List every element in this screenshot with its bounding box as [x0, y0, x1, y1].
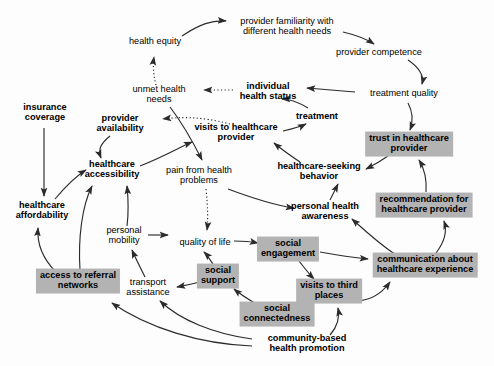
- edge-provider-competence-to-treatment-quality: [408, 60, 422, 84]
- node-quality-of-life[interactable]: quality of life: [179, 238, 230, 248]
- edge-provider-availability-to-accessibility: [100, 136, 110, 158]
- edge-seeking-behavior-to-visits: [274, 143, 300, 162]
- edge-pain-to-awareness: [228, 189, 294, 208]
- node-provider-familiarity[interactable]: provider familiarity with different heal…: [240, 17, 333, 37]
- node-social-support[interactable]: social support: [197, 264, 239, 289]
- edge-personal-mobility-to-accessibility: [127, 186, 128, 226]
- edge-treatment-quality-to-individual-health-status: [307, 88, 355, 92]
- node-healthcare-seeking-behavior[interactable]: healthcare-seeking behavior: [277, 162, 360, 182]
- edge-referral-to-affordability: [38, 228, 56, 272]
- edge-social-engagement-to-third-places: [299, 261, 314, 279]
- edge-pain-to-quality-of-life: [206, 189, 208, 230]
- node-communication-about-healthcare-experience[interactable]: communication about healthcare experienc…: [373, 253, 478, 278]
- edge-referral-to-accessibility: [80, 186, 93, 270]
- node-treatment[interactable]: treatment: [296, 112, 338, 122]
- node-healthcare-accessibility[interactable]: healthcare accessibility: [85, 160, 140, 180]
- node-pain-from-health-problems[interactable]: pain from health problems: [166, 166, 232, 186]
- edge-community-promotion-to-referral: [112, 303, 252, 346]
- edge-health-equity-to-provider-familiarity: [182, 21, 226, 36]
- node-social-engagement[interactable]: social engagement: [257, 237, 319, 262]
- edge-community-promotion-to-third-places: [330, 308, 339, 335]
- node-provider-competence[interactable]: provider competence: [336, 48, 422, 58]
- edge-affordability-to-accessibility: [55, 170, 86, 199]
- node-personal-mobility[interactable]: personal mobility: [106, 226, 141, 246]
- edge-social-support-to-quality-of-life: [204, 252, 213, 264]
- edge-quality-of-life-to-social-engagement: [234, 241, 258, 243]
- edge-trust-to-seeking-behavior: [366, 156, 388, 169]
- node-health-equity[interactable]: health equity: [129, 37, 181, 47]
- edge-social-engagement-to-communication: [320, 252, 368, 259]
- node-individual-health-status[interactable]: individual health status: [240, 82, 297, 102]
- edge-communication-to-recommendation: [436, 221, 445, 253]
- node-visits-to-healthcare-provider[interactable]: visits to healthcare provider: [194, 123, 277, 143]
- edge-visits-to-treatment: [283, 124, 306, 131]
- node-personal-health-awareness[interactable]: personal health awareness: [291, 202, 359, 222]
- edge-accessibility-to-visits: [140, 142, 192, 166]
- edge-unmet-needs-to-health-equity: [153, 57, 156, 85]
- edge-awareness-to-seeking-behavior: [330, 184, 338, 200]
- edge-transport-to-personal-mobility: [132, 250, 145, 277]
- node-trust-in-healthcare-provider[interactable]: trust in healthcare provider: [365, 132, 453, 157]
- causal-loop-diagram: health equity provider familiarity with …: [0, 0, 494, 366]
- node-healthcare-affordability[interactable]: healthcare affordability: [16, 201, 69, 221]
- edge-community-promotion-to-transport: [160, 301, 252, 339]
- node-community-based-health-promotion[interactable]: community-based health promotion: [268, 334, 347, 354]
- node-provider-availability[interactable]: provider availability: [97, 114, 144, 134]
- node-transport-assistance[interactable]: transport assistance: [126, 278, 169, 298]
- node-visits-to-third-places[interactable]: visits to third places: [296, 279, 362, 304]
- node-treatment-quality[interactable]: treatment quality: [370, 89, 438, 99]
- node-unmet-health-needs[interactable]: unmet health needs: [132, 85, 185, 105]
- node-insurance-coverage[interactable]: insurance coverage: [23, 103, 66, 123]
- edge-recommendation-to-trust: [419, 160, 426, 192]
- node-social-connectedness[interactable]: social connectedness: [240, 302, 315, 327]
- edge-treatment-quality-to-trust: [408, 103, 412, 130]
- edge-provider-familiarity-to-provider-competence: [343, 32, 374, 44]
- node-recommendation-for-healthcare-provider[interactable]: recommendation for healthcare provider: [376, 193, 473, 218]
- edge-communication-to-awareness: [352, 219, 396, 255]
- node-access-to-referral-networks[interactable]: access to referral networks: [36, 269, 120, 294]
